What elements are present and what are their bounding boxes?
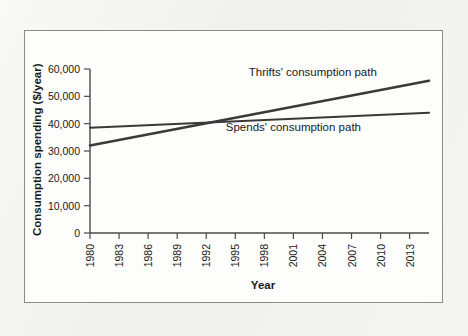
x-tick-label: 2013 [404, 244, 416, 268]
y-tick-label: 10,000 [48, 200, 80, 212]
x-tick-label: 1983 [113, 244, 125, 268]
x-axis-ticks: 1980198319861989199219951998200120042007… [84, 233, 416, 267]
y-tick-label: 40,000 [48, 118, 80, 130]
x-tick-label: 1992 [200, 244, 212, 268]
y-tick-label: 20,000 [48, 172, 80, 184]
y-axis-title: Consumption spending ($/year) [31, 63, 43, 236]
x-tick-label: 1998 [258, 244, 270, 268]
y-tick-label: 50,000 [48, 90, 80, 102]
y-axis-ticks: 010,00020,00030,00040,00050,00060,000 [48, 63, 90, 239]
series-path-0 [90, 81, 429, 146]
x-tick-label: 2001 [287, 244, 299, 268]
x-tick-label: 2010 [375, 244, 387, 268]
line-chart: Consumption spending ($/year) 010,00020,… [25, 31, 441, 301]
series-annotation-spends: Spends' consumption path [226, 121, 361, 133]
x-tick-label: 1995 [229, 244, 241, 268]
x-tick-label: 1980 [84, 244, 96, 268]
x-axis-title: Year [251, 279, 276, 291]
series-lines [90, 81, 429, 146]
x-tick-label: 1986 [142, 244, 154, 268]
y-tick-label: 0 [74, 227, 80, 239]
x-tick-label: 2004 [316, 244, 328, 268]
figure-frame: Consumption spending ($/year) 010,00020,… [24, 30, 443, 303]
y-tick-label: 30,000 [48, 145, 80, 157]
x-tick-label: 1989 [171, 244, 183, 268]
x-tick-label: 2007 [346, 244, 358, 268]
series-annotation-thrifts: Thrifts' consumption path [249, 66, 377, 78]
y-tick-label: 60,000 [48, 63, 80, 75]
